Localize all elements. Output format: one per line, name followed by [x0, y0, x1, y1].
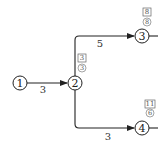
- node-4-earliest-value: 11: [146, 100, 155, 108]
- edge-1-2: 3: [27, 83, 67, 95]
- node-2-earliest-value: 3: [80, 54, 84, 62]
- edge-2-3-label: 5: [97, 38, 103, 49]
- edge-2-4-label: 3: [105, 131, 111, 142]
- edge-2-4: 3: [75, 90, 134, 142]
- node-2: 2 3 3: [68, 54, 86, 90]
- node-3-label: 3: [139, 30, 146, 43]
- node-4-label: 4: [139, 122, 146, 135]
- node-4: 4 11 6: [135, 100, 155, 135]
- edge-1-2-label: 3: [40, 84, 46, 95]
- node-4-latest-value: 6: [148, 109, 152, 117]
- network-diagram: 3 5 3 1 2 3 3 3 8 8 4 11: [0, 0, 168, 150]
- node-3: 3 8 8: [135, 8, 151, 43]
- node-1-label: 1: [17, 77, 24, 90]
- node-2-latest-value: 3: [80, 64, 84, 72]
- node-2-label: 2: [72, 77, 79, 90]
- node-3-earliest-value: 8: [145, 8, 149, 16]
- node-3-latest-value: 8: [145, 18, 149, 26]
- node-1: 1: [13, 76, 27, 90]
- edge-2-4-arrow: [75, 90, 134, 128]
